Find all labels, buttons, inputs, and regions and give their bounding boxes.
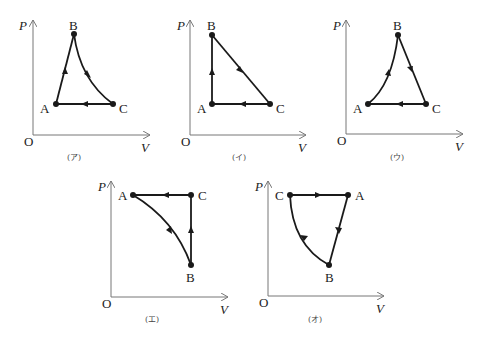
v-axis-label: V <box>298 140 308 155</box>
point-c <box>110 101 116 107</box>
arrow-down-icon <box>166 226 172 234</box>
origin-label: O <box>259 295 268 310</box>
v-axis-label: V <box>141 140 151 155</box>
label-a: A <box>118 188 128 203</box>
label-b: B <box>69 18 78 33</box>
point-c <box>287 192 293 198</box>
v-axis-label: V <box>455 139 465 154</box>
label-a: A <box>355 188 365 203</box>
arrow-left-icon <box>239 101 246 107</box>
arrow-up-icon <box>62 67 68 74</box>
label-c: C <box>432 101 441 116</box>
caption: (エ) <box>145 315 159 324</box>
point-c <box>423 101 429 107</box>
diagram-u: P V O A B C (ウ) <box>332 18 465 162</box>
label-c: C <box>119 101 128 116</box>
caption: (オ) <box>308 315 322 324</box>
label-c: C <box>198 188 207 203</box>
arrow-left-icon <box>81 101 88 107</box>
v-axis-label: V <box>220 302 230 317</box>
path-b-to-c <box>290 195 329 265</box>
arrow-left-icon <box>396 101 403 107</box>
p-axis-label: P <box>97 179 106 194</box>
origin-label: O <box>337 133 346 148</box>
label-b: B <box>393 18 402 33</box>
label-a: A <box>40 101 50 116</box>
label-c: C <box>276 101 285 116</box>
arrow-right-icon <box>315 192 322 198</box>
p-axis-label: P <box>254 179 263 194</box>
label-b: B <box>207 18 216 33</box>
arrow-down-icon <box>407 66 413 72</box>
point-a <box>130 192 136 198</box>
diagram-e: P V O A B C (エ) <box>97 179 230 324</box>
diagram-i: P V O A B C (イ) <box>176 18 308 162</box>
caption: (ア) <box>67 153 81 162</box>
point-c <box>188 192 194 198</box>
point-a <box>53 101 59 107</box>
arrow-left-icon <box>162 192 169 198</box>
v-axis-label: V <box>376 301 386 316</box>
label-a: A <box>353 101 363 116</box>
label-a: A <box>197 101 207 116</box>
p-axis-label: P <box>18 18 27 33</box>
caption: (ウ) <box>390 153 404 162</box>
p-axis-label: P <box>176 18 185 33</box>
diagram-a: P V O A B C (ア) <box>18 18 151 162</box>
pv-diagrams-figure: P V O A B C (ア) P V O A B C (イ) <box>0 0 485 339</box>
arrow-down-icon <box>335 227 342 234</box>
point-a <box>345 192 351 198</box>
p-axis-label: P <box>332 18 341 33</box>
path-a-to-b <box>368 35 398 104</box>
point-b <box>188 262 194 268</box>
label-b: B <box>186 270 195 285</box>
point-a <box>209 101 215 107</box>
arrow-up-icon <box>188 226 194 233</box>
origin-label: O <box>24 134 33 149</box>
point-c <box>267 101 273 107</box>
arrow-up-icon <box>209 68 215 75</box>
origin-label: O <box>102 296 111 311</box>
diagram-o: P V O A B C (オ) <box>254 179 386 324</box>
point-a <box>365 101 371 107</box>
point-b <box>326 262 332 268</box>
caption: (イ) <box>232 153 246 162</box>
path-a-to-b <box>133 195 191 265</box>
label-c: C <box>275 188 284 203</box>
path-b-to-c <box>74 34 113 104</box>
label-b: B <box>325 270 334 285</box>
origin-label: O <box>181 134 190 149</box>
